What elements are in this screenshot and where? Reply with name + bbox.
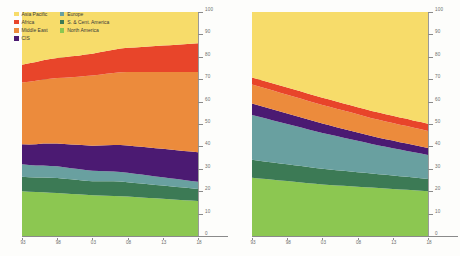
legend-label-middle_east: Middle East — [22, 28, 48, 33]
legend-item-europe[interactable]: Europe — [60, 11, 110, 17]
left-y-tick-label: 60 — [205, 98, 211, 103]
legend-label-africa: Africa — [22, 20, 35, 25]
left-x-tick-label: 08 — [124, 241, 134, 246]
left-chart-svg — [22, 12, 198, 236]
left-area-middle-east — [22, 72, 198, 152]
right-x-tick-label: 93 — [248, 241, 258, 246]
left-y-tick-label: 20 — [205, 187, 211, 192]
right-y-tick-label: 80 — [435, 53, 441, 58]
left-y-tick-label: 80 — [205, 53, 211, 58]
right-y-tick-mark — [428, 236, 433, 237]
left-x-tick-label: 93 — [18, 241, 28, 246]
right-plot-area — [252, 12, 428, 236]
left-x-tick-label: 13 — [159, 241, 169, 246]
right-y-tick-mark — [428, 146, 433, 147]
legend-swatch-icon-north_america — [60, 28, 65, 33]
left-y-tick-label: 50 — [205, 120, 211, 125]
right-y-tick-label: 50 — [435, 120, 441, 125]
right-y-tick-label: 20 — [435, 187, 441, 192]
legend-swatch-icon-cis — [14, 36, 19, 41]
right-y-tick-label: 10 — [435, 210, 441, 215]
legend-item-middle_east[interactable]: Middle East — [14, 27, 48, 33]
left-y-axis: 0102030405060708090100 — [198, 12, 228, 236]
left-y-tick-mark — [198, 146, 203, 147]
legend-column-1: EuropeS. & Cent. AmericaNorth America — [60, 11, 110, 42]
left-y-tick-label: 10 — [205, 210, 211, 215]
left-x-tick-label: 98 — [53, 241, 63, 246]
legend-column-0: Asia PacificAfricaMiddle EastCIS — [14, 11, 48, 42]
left-y-tick-label: 100 — [205, 8, 213, 13]
right-y-tick-label: 30 — [435, 165, 441, 170]
right-x-axis: 939803081318 — [252, 238, 428, 250]
legend-label-asia_pacific: Asia Pacific — [22, 12, 48, 17]
right-y-axis: 0102030405060708090100 — [428, 12, 458, 236]
legend-label-s_cent_america: S. & Cent. America — [67, 20, 109, 25]
legend-item-s_cent_america[interactable]: S. & Cent. America — [60, 19, 110, 25]
left-y-tick-mark — [198, 79, 203, 80]
left-plot-area — [22, 12, 198, 236]
left-x-tick-label: 03 — [88, 241, 98, 246]
legend-item-cis[interactable]: CIS — [14, 36, 48, 42]
legend-label-north_america: North America — [67, 28, 99, 33]
right-y-tick-mark — [428, 191, 433, 192]
legend-item-africa[interactable]: Africa — [14, 19, 48, 25]
right-y-tick-label: 0 — [435, 232, 438, 237]
dual-stacked-area-chart-figure: 0102030405060708090100 939803081318 Asia… — [0, 0, 460, 256]
right-x-tick-label: 03 — [318, 241, 328, 246]
left-y-tick-mark — [198, 57, 203, 58]
right-y-tick-mark — [428, 169, 433, 170]
right-y-tick-mark — [428, 214, 433, 215]
right-y-tick-mark — [428, 79, 433, 80]
left-y-tick-mark — [198, 169, 203, 170]
legend-swatch-icon-europe — [60, 12, 65, 17]
right-y-tick-mark — [428, 12, 433, 13]
left-y-tick-mark — [198, 34, 203, 35]
left-y-tick-mark — [198, 12, 203, 13]
legend-swatch-icon-s_cent_america — [60, 20, 65, 25]
legend-label-cis: CIS — [22, 36, 30, 41]
legend-swatch-icon-asia_pacific — [14, 12, 19, 17]
left-y-tick-label: 40 — [205, 142, 211, 147]
legend-label-europe: Europe — [67, 12, 83, 17]
left-y-tick-label: 0 — [205, 232, 208, 237]
legend-item-north_america[interactable]: North America — [60, 27, 110, 33]
right-y-tick-label: 70 — [435, 75, 441, 80]
left-x-axis: 939803081318 — [22, 238, 198, 250]
right-x-tick-label: 18 — [424, 241, 434, 246]
left-y-tick-label: 30 — [205, 165, 211, 170]
legend-swatch-icon-middle_east — [14, 28, 19, 33]
right-y-tick-mark — [428, 124, 433, 125]
left-y-tick-mark — [198, 191, 203, 192]
left-y-tick-label: 70 — [205, 75, 211, 80]
left-chart-panel: 0102030405060708090100 939803081318 Asia… — [0, 0, 230, 256]
right-chart-svg — [252, 12, 428, 236]
left-y-tick-mark — [198, 124, 203, 125]
left-x-tick-label: 18 — [194, 241, 204, 246]
right-chart-panel: 0102030405060708090100 939803081318 — [230, 0, 460, 256]
right-x-tick-label: 08 — [354, 241, 364, 246]
left-y-tick-mark — [198, 214, 203, 215]
right-y-tick-label: 60 — [435, 98, 441, 103]
left-y-tick-label: 90 — [205, 30, 211, 35]
legend-item-asia_pacific[interactable]: Asia Pacific — [14, 11, 48, 17]
left-y-tick-mark — [198, 236, 203, 237]
right-y-tick-mark — [428, 102, 433, 103]
left-y-tick-mark — [198, 102, 203, 103]
right-y-tick-label: 100 — [435, 8, 443, 13]
right-x-tick-label: 98 — [283, 241, 293, 246]
right-y-tick-label: 40 — [435, 142, 441, 147]
legend-swatch-icon-africa — [14, 20, 19, 25]
chart-legend: Asia PacificAfricaMiddle EastCISEuropeS.… — [14, 11, 109, 42]
right-y-tick-mark — [428, 34, 433, 35]
right-x-tick-label: 13 — [389, 241, 399, 246]
right-y-tick-label: 90 — [435, 30, 441, 35]
right-y-tick-mark — [428, 57, 433, 58]
